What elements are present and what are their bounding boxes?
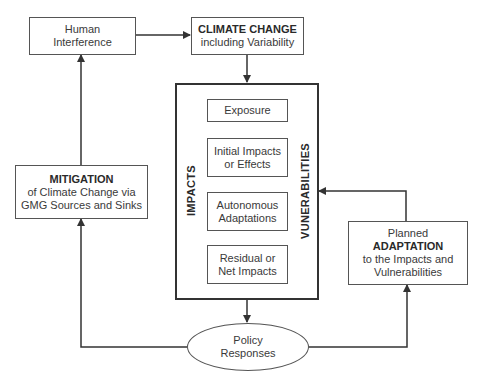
climate-change-node: CLIMATE CHANGE including Variability <box>191 17 304 55</box>
adaptation-node: Planned ADAPTATION to the Impacts and Vu… <box>348 221 468 285</box>
autonomous-adaptations-line1: Autonomous <box>217 199 279 212</box>
exposure-label: Exposure <box>224 104 270 117</box>
mitigation-line1: of Climate Change via <box>27 186 135 199</box>
adaptation-line2: Vulnerabilities <box>374 266 442 279</box>
adaptation-pre: Planned <box>388 227 428 240</box>
impacts-label: IMPACTS <box>185 166 197 216</box>
arrow-policy-to-mitigation <box>81 219 187 347</box>
adaptation-title: ADAPTATION <box>373 240 443 253</box>
policy-responses-node: Policy Responses <box>187 323 309 371</box>
initial-impacts-node: Initial Impacts or Effects <box>207 138 288 177</box>
climate-change-diagram: Human Interference CLIMATE CHANGE includ… <box>0 0 480 388</box>
mitigation-title: MITIGATION <box>50 173 114 186</box>
human-interference-node: Human Interference <box>29 17 136 55</box>
autonomous-adaptations-line2: Adaptations <box>218 212 276 225</box>
adaptation-line1: to the Impacts and <box>363 253 454 266</box>
mitigation-line2: GMG Sources and Sinks <box>21 199 142 212</box>
residual-impacts-line2: Net Impacts <box>218 265 277 278</box>
policy-responses-line2: Responses <box>220 347 275 360</box>
residual-impacts-line1: Residual or <box>220 252 276 265</box>
policy-responses-line1: Policy <box>233 334 262 347</box>
residual-impacts-node: Residual or Net Impacts <box>207 245 288 284</box>
climate-change-subtitle: including Variability <box>201 36 294 49</box>
initial-impacts-line1: Initial Impacts <box>214 145 281 158</box>
arrow-adaptation-to-vulnerabilities <box>319 191 406 221</box>
exposure-node: Exposure <box>207 99 288 122</box>
vulnerabilities-label: VUNERABILITIES <box>299 141 311 241</box>
human-interference-line2: Interference <box>53 36 112 49</box>
initial-impacts-line2: or Effects <box>224 158 270 171</box>
climate-change-title: CLIMATE CHANGE <box>198 23 297 36</box>
human-interference-line1: Human <box>65 23 100 36</box>
autonomous-adaptations-node: Autonomous Adaptations <box>207 192 288 231</box>
mitigation-node: MITIGATION of Climate Change via GMG Sou… <box>15 165 148 219</box>
arrow-policy-to-adaptation <box>308 285 407 347</box>
